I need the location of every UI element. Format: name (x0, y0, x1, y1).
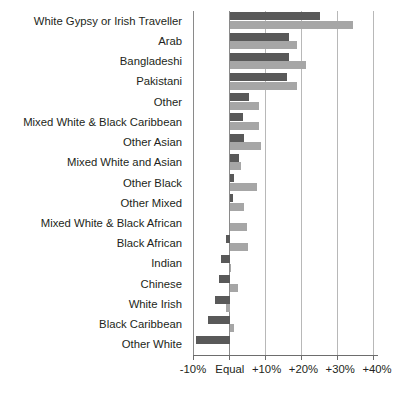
category-label-8: Other Black (123, 177, 182, 189)
bar-series-b-4 (230, 102, 259, 110)
category-label-11: Black African (117, 237, 182, 249)
bar-series-a-12 (221, 255, 230, 263)
category-label-0: White Gypsy or Irish Traveller (34, 15, 182, 27)
gridline-plus-40 (373, 11, 374, 355)
bar-series-a-8 (230, 174, 234, 182)
x-tick-plus-20 (301, 356, 302, 360)
bar-series-a-1 (230, 33, 289, 41)
chart-container: White Gypsy or Irish TravellerArabBangla… (0, 0, 402, 397)
category-label-4: Other (154, 96, 182, 108)
category-label-13: Chinese (141, 278, 182, 290)
x-tick-label-4: +30% (326, 362, 355, 376)
bar-series-b-8 (230, 183, 258, 191)
bar-series-a-0 (230, 12, 320, 20)
bar-series-b-2 (230, 61, 307, 69)
bar-series-a-4 (230, 93, 250, 101)
bar-series-b-0 (230, 21, 354, 29)
bar-series-b-3 (230, 82, 297, 90)
x-axis-tick-labels: -10%Equal+10%+20%+30%+40% (0, 362, 402, 378)
x-tick-label-3: +20% (289, 362, 318, 376)
bar-series-b-6 (230, 142, 262, 150)
category-label-10: Mixed White & Black African (41, 217, 182, 229)
x-tick-label-1: Equal (215, 362, 244, 376)
bar-series-b-15 (230, 324, 234, 332)
category-label-16: Other White (122, 338, 182, 350)
bar-series-b-1 (230, 41, 297, 49)
x-tick-plus-10 (265, 356, 266, 360)
bar-series-b-7 (230, 162, 241, 170)
category-axis-labels: White Gypsy or Irish TravellerArabBangla… (0, 11, 188, 355)
x-tick-label-0: -10% (180, 362, 206, 376)
x-tick-plus-30 (337, 356, 338, 360)
category-label-3: Pakistani (136, 75, 182, 87)
x-tick-minus-10 (193, 356, 194, 360)
bar-series-b-9 (230, 203, 244, 211)
bar-series-b-14 (226, 304, 230, 312)
plot-area (193, 11, 377, 355)
bar-series-b-13 (230, 284, 238, 292)
bar-series-a-3 (230, 73, 287, 81)
bar-series-b-11 (230, 243, 248, 251)
gridline-minus-10 (193, 11, 194, 355)
category-label-6: Other Asian (123, 136, 182, 148)
bar-series-a-2 (230, 53, 289, 61)
x-tick-label-5: +40% (362, 362, 391, 376)
bar-series-a-16 (196, 336, 230, 344)
bar-series-a-7 (230, 154, 239, 162)
category-label-1: Arab (158, 35, 182, 47)
caption-remnant (0, 389, 402, 397)
bar-series-a-5 (230, 113, 243, 121)
bar-series-a-14 (215, 296, 229, 304)
x-tick-zero (229, 356, 230, 360)
category-label-9: Other Mixed (120, 197, 182, 209)
gridline-plus-30 (337, 11, 338, 355)
category-label-2: Bangladeshi (120, 55, 182, 67)
category-label-14: White Irish (129, 298, 182, 310)
bar-series-b-5 (230, 122, 259, 130)
bar-series-a-9 (230, 194, 233, 202)
category-label-12: Indian (151, 257, 182, 269)
x-axis-line (193, 355, 378, 356)
bar-series-a-6 (230, 134, 244, 142)
x-tick-label-2: +10% (252, 362, 281, 376)
bar-series-a-11 (226, 235, 230, 243)
category-label-7: Mixed White and Asian (67, 156, 182, 168)
category-label-5: Mixed White & Black Caribbean (23, 116, 182, 128)
bar-series-b-10 (230, 223, 247, 231)
bar-series-b-12 (230, 264, 231, 272)
bar-series-a-15 (208, 316, 229, 324)
bar-series-a-13 (219, 275, 229, 283)
category-label-15: Black Caribbean (99, 318, 182, 330)
x-tick-plus-40 (373, 356, 374, 360)
